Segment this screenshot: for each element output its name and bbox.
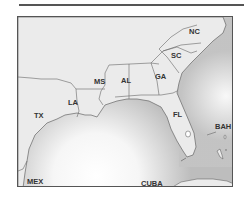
label-mississippi: MS	[94, 77, 105, 86]
top-rule	[19, 4, 244, 6]
label-south-carolina: SC	[171, 51, 182, 60]
southeast-us-map: NC SC GA AL MS LA TX FL BAH MEX CUBA	[18, 17, 233, 187]
label-north-carolina: NC	[189, 27, 200, 36]
label-louisiana: LA	[68, 98, 79, 107]
label-georgia: GA	[155, 72, 167, 81]
label-bahamas: BAH	[215, 122, 231, 131]
label-texas: TX	[34, 111, 44, 120]
label-cuba: CUBA	[141, 179, 163, 187]
lake-okeechobee	[186, 131, 191, 137]
label-alabama: AL	[121, 76, 131, 85]
map-frame: NC SC GA AL MS LA TX FL BAH MEX CUBA	[17, 16, 233, 187]
label-mexico: MEX	[27, 177, 43, 186]
label-florida: FL	[173, 110, 183, 119]
